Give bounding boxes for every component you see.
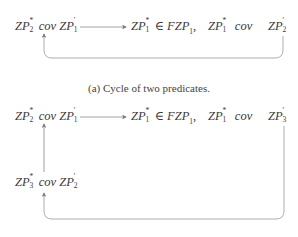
- node-rel: ∈: [155, 19, 164, 33]
- node-b3: ZP*1 cov: [208, 110, 252, 123]
- node-sup: ′: [283, 107, 285, 115]
- node-sup: *: [223, 17, 227, 25]
- node-rel: cov: [39, 19, 56, 33]
- node-sub2: 1: [74, 116, 78, 124]
- node-base: ZP: [15, 175, 30, 189]
- node-sub: 3: [283, 116, 287, 124]
- node-sup2: ′: [74, 17, 76, 25]
- node-sub: 1: [223, 26, 227, 34]
- node-trail: ,: [193, 109, 196, 123]
- node-rel: cov: [39, 109, 56, 123]
- node-a4: ZP′2: [268, 20, 289, 33]
- node-a2: ZP*1 ∈ FZP1,: [131, 20, 196, 35]
- node-sub: 2: [30, 26, 34, 34]
- node-base: ZP: [208, 19, 223, 33]
- node-rel: cov: [235, 109, 252, 123]
- node-sup: *: [30, 173, 34, 181]
- node-sub2: 2: [74, 182, 78, 190]
- node-rhs: FZP: [167, 109, 189, 123]
- node-sup: *: [146, 107, 150, 115]
- node-base2: ZP: [59, 19, 74, 33]
- node-rel: ∈: [155, 109, 164, 123]
- node-sup2: ′: [74, 173, 76, 181]
- node-base: ZP: [15, 109, 30, 123]
- node-sub: 2: [30, 116, 34, 124]
- node-sup: *: [30, 17, 34, 25]
- node-base: ZP: [15, 19, 30, 33]
- figure-a-caption: (a) Cycle of two predicates.: [0, 82, 298, 94]
- node-sup: *: [223, 107, 227, 115]
- node-rel: cov: [235, 19, 252, 33]
- node-base: ZP: [131, 19, 146, 33]
- node-sub: 1: [146, 26, 150, 34]
- node-base: ZP: [268, 19, 283, 33]
- node-b2: ZP*1 ∈ FZP1,: [131, 110, 196, 125]
- arrow-b-loop: [44, 126, 284, 219]
- node-base2: ZP: [59, 175, 74, 189]
- node-sup: *: [146, 17, 150, 25]
- node-b1: ZP*2 cov ZP′1: [15, 110, 80, 123]
- node-base: ZP: [268, 109, 283, 123]
- node-b5: ZP*3 cov ZP′2: [15, 176, 80, 189]
- node-sup2: ′: [74, 107, 76, 115]
- node-trail: ,: [193, 19, 196, 33]
- node-rhs: FZP: [167, 19, 189, 33]
- node-base: ZP: [208, 109, 223, 123]
- arrow-a-loop: [44, 34, 283, 58]
- node-sub: 3: [30, 182, 34, 190]
- node-sub: 2: [283, 26, 287, 34]
- node-a1: ZP*2 cov ZP′1: [15, 20, 80, 33]
- node-b4: ZP′3: [268, 110, 289, 123]
- node-sub2: 1: [74, 26, 78, 34]
- node-a3: ZP*1 cov: [208, 20, 252, 33]
- node-base2: ZP: [59, 109, 74, 123]
- node-sub: 1: [146, 116, 150, 124]
- node-sub: 1: [223, 116, 227, 124]
- node-sup: ′: [283, 17, 285, 25]
- node-sup: *: [30, 107, 34, 115]
- node-base: ZP: [131, 109, 146, 123]
- node-rel: cov: [39, 175, 56, 189]
